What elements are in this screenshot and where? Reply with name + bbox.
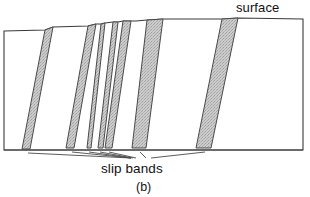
surface-label: surface xyxy=(236,0,279,15)
leader-line-6 xyxy=(140,152,146,158)
panel-label: (b) xyxy=(136,180,151,194)
leader-line-group xyxy=(28,152,205,158)
slip-bands-label: slip bands xyxy=(101,161,163,176)
figure-container: surface slip bands (b) xyxy=(0,0,310,197)
leader-line-7 xyxy=(151,152,205,158)
